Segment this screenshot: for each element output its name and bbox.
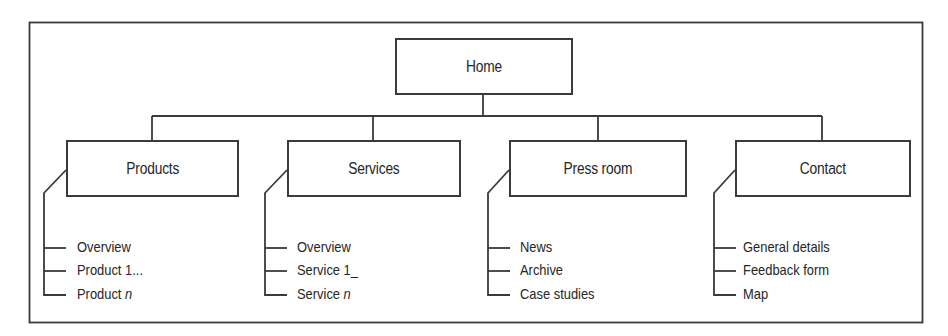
node-contact: Contact xyxy=(735,140,911,197)
list-item-product-n-prefix: Product xyxy=(77,285,125,302)
list-item-service-1: Service 1_ xyxy=(297,262,358,278)
list-item-service-n-var: n xyxy=(344,285,351,302)
node-services: Services xyxy=(287,140,461,197)
node-home: Home xyxy=(395,38,573,95)
list-item-case-studies: Case studies xyxy=(520,286,595,302)
list-item-product-1: Product 1... xyxy=(77,262,143,278)
list-item-service-n: Service n xyxy=(297,286,351,302)
list-item-general-details: General details xyxy=(743,239,830,255)
list-item-news: News xyxy=(520,239,552,255)
node-press-room: Press room xyxy=(509,140,687,197)
node-products-label: Products xyxy=(126,160,179,178)
list-item-products-overview: Overview xyxy=(77,239,131,255)
node-home-label: Home xyxy=(466,58,502,76)
node-contact-label: Contact xyxy=(800,160,846,178)
list-item-services-overview: Overview xyxy=(297,239,351,255)
node-products: Products xyxy=(66,140,239,197)
node-services-label: Services xyxy=(348,160,399,178)
node-press-room-label: Press room xyxy=(564,160,633,178)
list-item-product-n-var: n xyxy=(125,285,132,302)
list-item-map: Map xyxy=(743,286,768,302)
list-item-archive: Archive xyxy=(520,262,563,278)
list-item-service-n-prefix: Service xyxy=(297,285,344,302)
list-item-product-n: Product n xyxy=(77,286,132,302)
list-item-feedback-form: Feedback form xyxy=(743,262,829,278)
